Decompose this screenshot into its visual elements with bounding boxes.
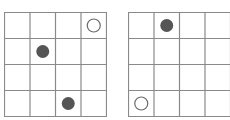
grid-right — [128, 12, 230, 117]
filled-circle-icon — [62, 97, 75, 110]
grid-left — [4, 12, 107, 117]
board-right — [128, 12, 230, 117]
hollow-circle-icon — [135, 97, 148, 110]
filled-circle-icon — [160, 19, 173, 32]
filled-circle-icon — [36, 45, 49, 58]
hollow-circle-icon — [87, 19, 100, 32]
board-left — [4, 12, 107, 117]
